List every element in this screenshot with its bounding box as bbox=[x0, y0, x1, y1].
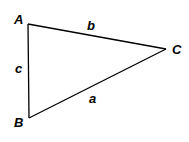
side-c-label: c bbox=[15, 61, 23, 76]
side-b-label: b bbox=[87, 18, 95, 33]
side-c-line bbox=[28, 24, 29, 118]
side-a-label: a bbox=[89, 91, 96, 106]
vertex-a-label: A bbox=[13, 12, 23, 27]
triangle-diagram: A B C b c a bbox=[0, 0, 189, 142]
side-a-line bbox=[29, 49, 166, 118]
vertex-b-label: B bbox=[14, 115, 23, 130]
side-b-line bbox=[28, 24, 166, 49]
vertex-c-label: C bbox=[172, 42, 182, 57]
